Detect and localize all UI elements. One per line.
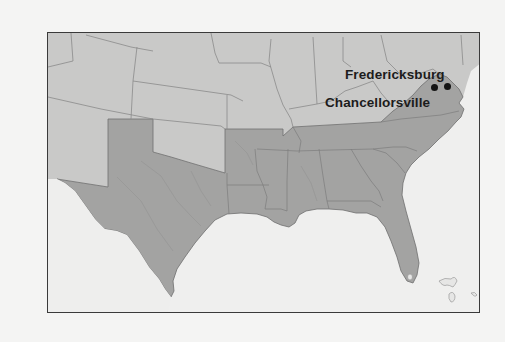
chancellorsville-marker-icon bbox=[431, 84, 438, 91]
fredericksburg-marker-icon bbox=[444, 83, 451, 90]
chancellorsville-label: Chancellorsville bbox=[325, 96, 430, 110]
map-frame: Fredericksburg Chancellorsville bbox=[47, 32, 480, 313]
fredericksburg-label: Fredericksburg bbox=[345, 68, 445, 82]
